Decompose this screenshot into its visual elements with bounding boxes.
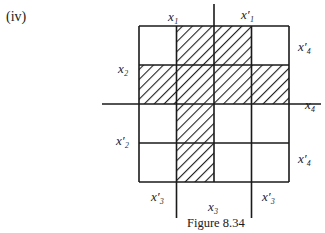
shaded-cell	[177, 143, 215, 182]
label-x1: x₁	[168, 10, 178, 23]
label-x1-prime: x′₁	[241, 8, 254, 21]
label-x3-prime-right: x′₃	[262, 190, 275, 203]
shaded-cell	[177, 65, 215, 104]
label-x4: x₄	[305, 98, 315, 111]
label-x2: x₂	[118, 62, 128, 75]
label-x2-prime: x′₂	[116, 134, 129, 147]
shaded-cell	[252, 65, 290, 104]
label-x3-prime-left: x′₃	[151, 190, 164, 203]
shaded-cell	[139, 65, 177, 104]
shaded-cell	[214, 26, 252, 65]
label-x4-prime-top: x′₄	[298, 40, 311, 53]
shaded-cell	[177, 104, 215, 143]
shaded-cell	[214, 65, 252, 104]
label-x4-prime-bottom: x′₄	[298, 152, 311, 165]
label-x3: x₃	[208, 200, 218, 213]
figure-caption: Figure 8.34	[187, 217, 245, 230]
shaded-cell	[177, 26, 215, 65]
